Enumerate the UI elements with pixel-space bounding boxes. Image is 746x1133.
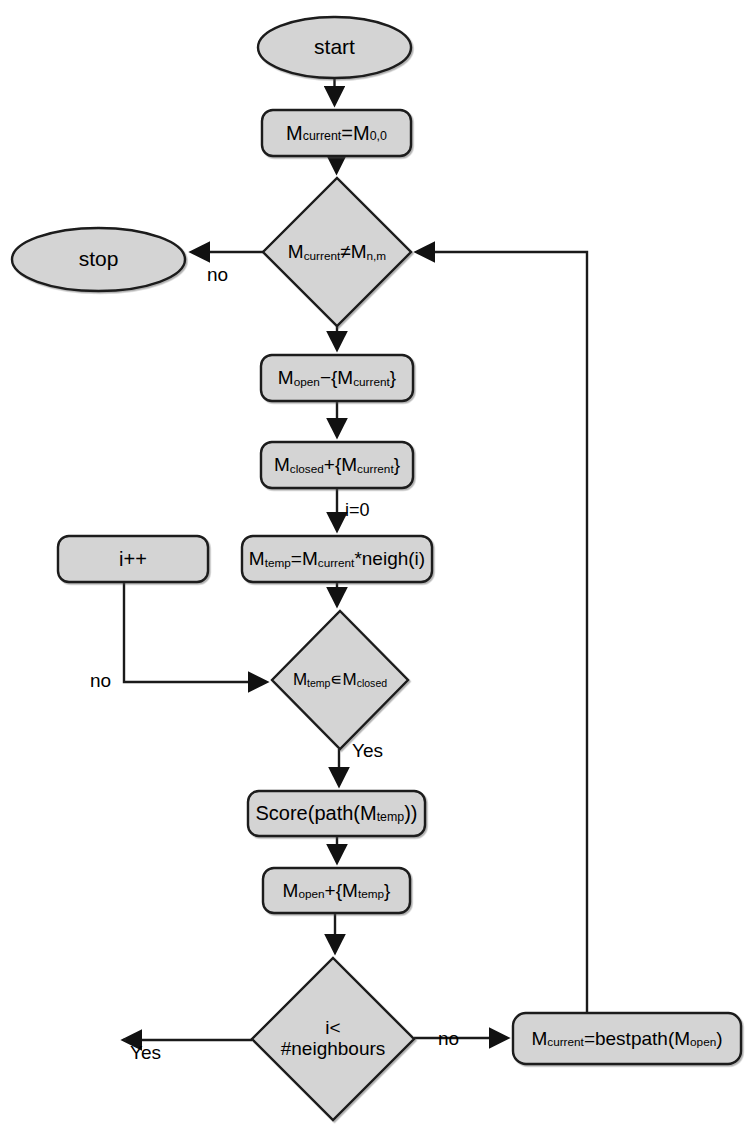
node-init[interactable] [262, 110, 411, 156]
node-closedadd[interactable] [261, 442, 413, 488]
node-bestpath[interactable] [513, 1013, 741, 1064]
node-iplusplus[interactable] [58, 536, 208, 582]
edge-iplusplus-to-closedcheck [124, 582, 266, 682]
node-openremove[interactable] [261, 355, 413, 401]
flowchart-graphics [0, 0, 746, 1133]
node-goalcheck[interactable] [263, 178, 411, 326]
node-score[interactable] [248, 791, 425, 836]
node-closedcheck[interactable] [272, 611, 408, 749]
node-loopcheck[interactable] [252, 958, 414, 1120]
node-start[interactable] [258, 17, 411, 78]
node-stop[interactable] [12, 228, 185, 291]
edge-bestpath-to-goalcheck [417, 252, 587, 1013]
node-openadd[interactable] [263, 868, 410, 913]
flowchart-canvas: start Mcurrent=M0,0 Mcurrent≠Mn,m stop M… [0, 0, 746, 1133]
node-mtemp[interactable] [242, 536, 432, 582]
